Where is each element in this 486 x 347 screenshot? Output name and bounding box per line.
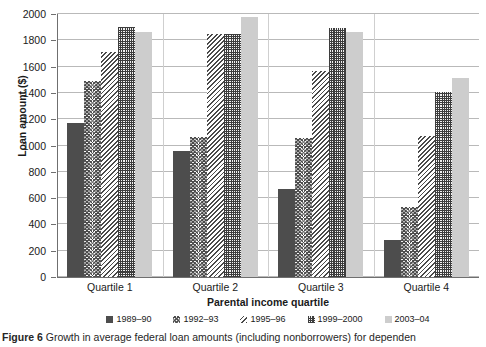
legend-item[interactable]: 2003–04 [385,315,430,324]
bar [452,78,469,277]
y-axis-tick [51,40,56,41]
y-axis-tick-label: 0 [40,272,46,282]
bar [329,28,346,277]
category-separator [163,14,164,277]
legend-label: 1995–96 [250,315,285,324]
bar [224,34,241,277]
bar-group [268,14,374,277]
y-axis-tick [51,251,56,252]
legend-label: 1989–90 [116,315,151,324]
figure-caption: Figure 6 Growth in average federal loan … [2,331,486,344]
chart-legend: 1989–901992–931995–961999–20002003–04 [57,312,479,326]
legend-swatch-icon [308,316,315,323]
figure-caption-text: Growth in average federal loan amounts (… [46,331,416,343]
y-axis-tick [51,93,56,94]
x-axis-labels: Quartile 1Quartile 2Quartile 3Quartile 4 [57,281,479,297]
y-axis-tick-label: 1600 [23,62,46,72]
legend-swatch-icon [106,316,113,323]
plot-area [57,14,479,277]
legend-item[interactable]: 1989–90 [106,315,151,324]
bar [346,32,363,277]
bar [435,92,452,277]
bar [312,71,329,277]
legend-label: 1999–2000 [318,315,363,324]
category-separator [268,14,269,277]
y-axis-tick-label: 1400 [23,88,46,98]
bar [384,240,401,277]
legend-label: 2003–04 [395,315,430,324]
legend-label: 1992–93 [183,315,218,324]
bar-group [374,14,480,277]
bar [241,17,258,277]
y-axis-line [57,14,58,278]
y-axis-tick [51,277,56,278]
x-axis-line [57,277,479,278]
figure-caption-label: Figure 6 [2,331,43,343]
legend-item[interactable]: 1999–2000 [308,315,363,324]
bar [207,34,224,277]
y-axis-tick [51,198,56,199]
y-axis-tick [51,146,56,147]
bar [190,137,207,277]
y-axis-tick [51,224,56,225]
y-axis-tick-label: 200 [28,246,46,256]
bar [84,81,101,277]
legend-swatch-icon [385,316,392,323]
legend-swatch-icon [240,316,247,323]
legend-swatch-icon [173,316,180,323]
y-axis-tick-label: 1800 [23,35,46,45]
y-axis-tick-label: 1000 [23,141,46,151]
y-axis-tick-label: 2000 [23,9,46,19]
legend-item[interactable]: 1992–93 [173,315,218,324]
bar [278,189,295,277]
bar-group [57,14,163,277]
x-axis-category-label: Quartile 4 [374,281,480,293]
category-separator [374,14,375,277]
y-axis-tick [51,67,56,68]
bar [295,138,312,277]
bar [118,27,135,277]
bar [401,207,418,277]
bar [101,52,118,277]
bar [173,151,190,277]
bar [67,123,84,278]
bar [135,32,152,277]
bar-group [163,14,269,277]
bar [418,136,435,277]
y-axis-tick-label: 1200 [23,114,46,124]
y-axis-labels: 0200400600800100012001400160018002000 [0,0,54,295]
legend-item[interactable]: 1995–96 [240,315,285,324]
x-axis-category-label: Quartile 2 [163,281,269,293]
x-axis-category-label: Quartile 1 [57,281,163,293]
figure-container: Loan amount ($) 020040060080010001200140… [0,0,486,347]
y-axis-tick [51,172,56,173]
y-axis-tick-label: 600 [28,193,46,203]
y-axis-tick [51,119,56,120]
y-axis-tick-label: 800 [28,167,46,177]
y-axis-tick-label: 400 [28,219,46,229]
x-axis-category-label: Quartile 3 [268,281,374,293]
x-axis-title: Parental income quartile [57,296,479,308]
y-axis-tick [51,14,56,15]
